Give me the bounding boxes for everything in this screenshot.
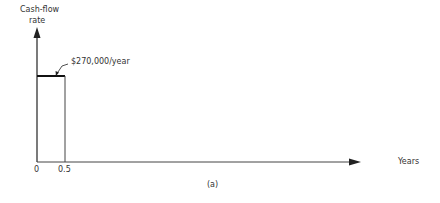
y-axis-label-line2: rate <box>29 16 45 25</box>
x-tick-0-5: 0.5 <box>58 165 71 174</box>
y-axis-arrow-icon <box>34 27 41 38</box>
x-axis-arrow-icon <box>349 159 361 166</box>
annotation-label: $270,000/year <box>71 57 130 66</box>
figure-caption: (a) <box>207 180 218 189</box>
x-axis-label: Years <box>398 157 419 166</box>
x-tick-0: 0 <box>34 165 39 174</box>
y-axis-label-line1: Cash-flow <box>20 5 59 14</box>
